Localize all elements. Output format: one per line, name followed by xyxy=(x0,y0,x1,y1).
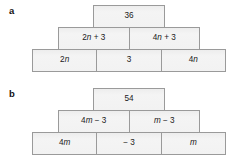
pyramid-a-cell-middle-left-text: 2n + 3 xyxy=(82,34,105,42)
worksheet-page: a 36 2n + 3 4n + 3 2n 3 xyxy=(0,0,237,165)
pyramid-a-row-middle: 2n + 3 4n + 3 xyxy=(58,27,200,50)
pyramid-a-cell-middle-right-text: 4n + 3 xyxy=(153,34,176,42)
pyramid-b-cell-bottom-right-text: m xyxy=(190,139,197,147)
part-label-a: a xyxy=(9,6,14,16)
pyramid-b-cell-bottom-right: m xyxy=(161,132,226,155)
pyramid-b-cell-top: 54 xyxy=(93,88,165,111)
pyramid-a-row-bottom: 2n 3 4n xyxy=(32,49,226,72)
pyramid-b-cell-middle-left: 4m − 3 xyxy=(58,110,130,133)
pyramid-a-cell-bottom-right: 4n xyxy=(161,49,226,72)
pyramid-b-row-bottom: 4m − 3 m xyxy=(32,132,226,155)
pyramid-b-cell-middle-right: m − 3 xyxy=(129,110,201,133)
pyramid-b-cell-bottom-middle-text: − 3 xyxy=(123,139,135,147)
pyramid-a-cell-bottom-left: 2n xyxy=(32,49,97,72)
pyramid-a-cell-bottom-left-text: 2n xyxy=(60,56,69,64)
pyramid-b-cell-bottom-left: 4m xyxy=(32,132,97,155)
pyramid-a-row-top: 36 xyxy=(93,5,165,28)
pyramid-a-cell-bottom-right-text: 4n xyxy=(189,56,198,64)
pyramid-a-cell-bottom-middle: 3 xyxy=(96,49,161,72)
pyramid-b-row-middle: 4m − 3 m − 3 xyxy=(58,110,200,133)
part-label-b: b xyxy=(9,89,15,99)
pyramid-b-cell-bottom-middle: − 3 xyxy=(96,132,161,155)
pyramid-b-cell-bottom-left-text: 4m xyxy=(59,139,70,147)
pyramid-b-row-top: 54 xyxy=(93,88,165,111)
pyramid-a-cell-bottom-middle-text: 3 xyxy=(127,56,132,64)
pyramid-a-cell-middle-right: 4n + 3 xyxy=(129,27,201,50)
pyramid-b-cell-middle-right-text: m − 3 xyxy=(154,117,175,125)
pyramid-a-cell-top: 36 xyxy=(93,5,165,28)
pyramid-a-cell-middle-left: 2n + 3 xyxy=(58,27,130,50)
pyramid-b-cell-middle-left-text: 4m − 3 xyxy=(81,117,106,125)
pyramid-a-cell-top-text: 36 xyxy=(124,12,133,20)
pyramid-b-cell-top-text: 54 xyxy=(124,95,133,103)
